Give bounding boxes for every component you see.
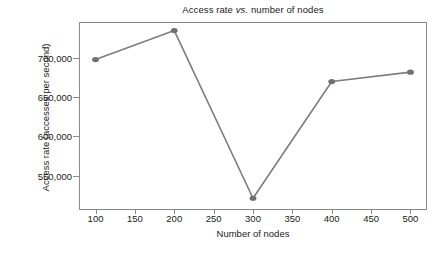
chart-title-before: Access rate (182, 4, 235, 15)
x-tick-label: 400 (324, 213, 340, 224)
x-axis-title: Number of nodes (79, 228, 427, 239)
x-tick-label: 450 (363, 213, 379, 224)
data-point-marker (171, 28, 178, 33)
data-line (96, 31, 411, 199)
y-tick-label: 650,000 (38, 92, 72, 103)
x-tick-label: 150 (127, 213, 143, 224)
x-tick-label: 350 (284, 213, 300, 224)
data-point-marker (407, 70, 414, 75)
y-tick-label: 600,000 (38, 131, 72, 142)
data-point-marker (92, 57, 99, 62)
y-tick-label: 550,000 (38, 170, 72, 181)
x-tick-label: 300 (245, 213, 261, 224)
y-axis-tick-labels: 550,000600,000650,000700,000 (0, 0, 72, 255)
data-point-marker (328, 79, 335, 84)
plot-area (79, 22, 427, 210)
x-tick-label: 100 (88, 213, 104, 224)
chart-figure: Access rate vs. number of nodes Access r… (0, 0, 446, 255)
x-tick-label: 200 (166, 213, 182, 224)
data-point-marker (250, 196, 257, 201)
chart-title-italic: vs. (236, 4, 248, 15)
chart-title: Access rate vs. number of nodes (79, 4, 427, 15)
y-tick-label: 700,000 (38, 53, 72, 64)
chart-title-after: number of nodes (248, 4, 324, 15)
x-tick-label: 250 (206, 213, 222, 224)
x-tick-label: 500 (403, 213, 419, 224)
data-markers (92, 28, 414, 201)
